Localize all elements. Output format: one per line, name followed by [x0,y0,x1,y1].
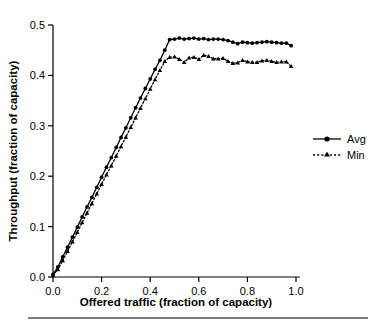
data-point-marker [275,41,279,45]
legend-marker-circle-icon [324,136,329,141]
chart-background [0,0,381,329]
data-point-marker [197,37,201,41]
data-point-marker [119,135,123,139]
y-tick-label: 0.0 [30,271,45,283]
data-point-marker [158,58,162,62]
data-point-marker [168,38,172,42]
data-point-marker [202,37,206,41]
data-point-marker [260,40,264,44]
data-point-marker [109,156,113,160]
data-point-marker [105,165,109,169]
data-point-marker [265,40,269,44]
y-tick-label: 0.2 [30,170,45,182]
y-tick-label: 0.1 [30,221,45,233]
y-tick-label: 0.3 [30,120,45,132]
y-axis-title: Throughput (fraction of capacity) [7,60,19,241]
data-point-marker [255,41,259,45]
legend-label-min: Min [347,149,365,161]
data-point-marker [289,44,293,48]
data-point-marker [221,38,225,42]
throughput-vs-offered-traffic-chart: 0.00.20.40.60.81.0 0.00.10.20.30.40.5 Of… [0,0,381,329]
data-point-marker [236,42,240,46]
data-point-marker [192,36,196,40]
x-tick-label: 1.0 [288,285,303,297]
data-point-marker [284,41,288,45]
data-point-marker [95,185,99,189]
x-axis-title: Offered traffic (fraction of capacity) [80,296,273,308]
data-point-marker [134,106,138,110]
data-point-marker [163,48,167,52]
legend-label-avg: Avg [347,133,366,145]
data-point-marker [211,37,215,41]
data-point-marker [173,37,177,41]
chart-figure: 0.00.20.40.60.81.0 0.00.10.20.30.40.5 Of… [0,0,381,329]
data-point-marker [100,175,104,179]
y-tick-label: 0.5 [30,19,45,31]
data-point-marker [280,41,284,45]
data-point-marker [270,40,274,44]
data-point-marker [216,37,220,41]
data-point-marker [177,36,181,40]
data-point-marker [187,37,191,41]
data-point-marker [80,215,84,219]
data-point-marker [124,126,128,130]
data-point-marker [143,87,147,91]
data-point-marker [114,146,118,150]
data-point-marker [148,77,152,81]
data-point-marker [241,40,245,44]
data-point-marker [129,116,133,120]
data-point-marker [226,39,230,43]
data-point-marker [231,40,235,44]
data-point-marker [182,37,186,41]
data-point-marker [153,67,157,71]
data-point-marker [250,41,254,45]
data-point-marker [207,38,211,42]
data-point-marker [139,96,143,100]
data-point-marker [90,195,94,199]
x-tick-label: 0.0 [45,285,60,297]
data-point-marker [85,205,89,209]
y-tick-label: 0.4 [30,69,45,81]
data-point-marker [71,235,75,239]
data-point-marker [246,41,250,45]
